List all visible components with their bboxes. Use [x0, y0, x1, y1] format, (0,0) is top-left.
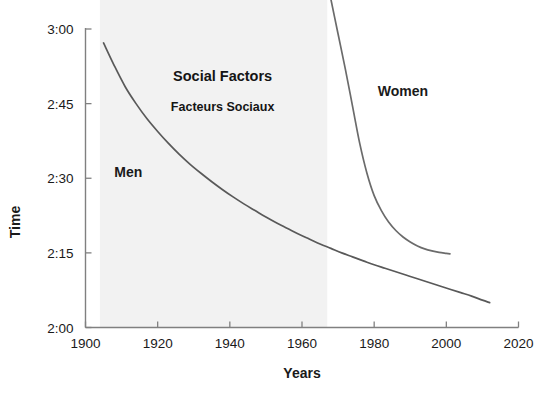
- series-line-women: [324, 0, 450, 254]
- x-tick-label: 1980: [359, 336, 389, 351]
- x-tick-label: 2000: [431, 336, 461, 351]
- x-tick-label: 1940: [215, 336, 245, 351]
- y-tick-label: 2:30: [47, 171, 73, 186]
- y-tick-label: 2:45: [47, 97, 73, 112]
- series-label-men: Men: [114, 164, 142, 180]
- chart-plot-area: 19001920194019601980200020202:002:152:30…: [0, 0, 558, 401]
- y-tick-label: 3:00: [47, 22, 73, 37]
- y-tick-label: 2:00: [47, 321, 73, 336]
- x-tick-label: 2020: [503, 336, 533, 351]
- x-tick-label: 1960: [287, 336, 317, 351]
- x-axis-title: Years: [283, 365, 321, 381]
- y-axis-title: Time: [7, 206, 23, 239]
- shaded-region-label-en: Social Factors: [173, 68, 272, 84]
- y-tick-label: 2:15: [47, 246, 73, 261]
- x-tick-label: 1920: [143, 336, 173, 351]
- marathon-world-record-chart: 19001920194019601980200020202:002:152:30…: [0, 0, 558, 401]
- shaded-region-label-fr: Facteurs Sociaux: [171, 100, 275, 114]
- series-label-women: Women: [378, 83, 428, 99]
- x-tick-label: 1900: [70, 336, 100, 351]
